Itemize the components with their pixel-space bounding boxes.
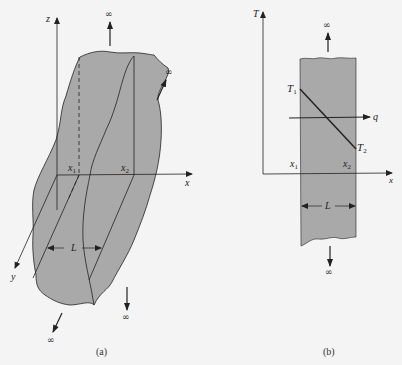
arrow-down-left-infinity (53, 313, 62, 332)
x-axis-b (263, 173, 392, 174)
semi-infinite-slab-3d (33, 51, 169, 305)
heat-flux-label-q: q (373, 111, 378, 122)
x1-label-b: x1 (289, 158, 298, 171)
infinity-symbol-right: ∞ (165, 67, 173, 77)
figure-b: T x q T1 T2 x1 x2 L ∞ ∞ (b) (253, 8, 393, 358)
infinity-symbol-bottom-right: ∞ (122, 312, 130, 322)
slab-cross-section (300, 58, 356, 246)
T-axis-label: T (253, 8, 260, 19)
figure-a: z x y x1 x2 L ∞ ∞ ∞ (10, 9, 192, 358)
x-axis-label-b: x (388, 175, 393, 185)
y-axis-label: y (10, 271, 16, 282)
caption-b: (b) (323, 346, 335, 358)
thickness-label-L: L (70, 242, 77, 253)
caption-a: (a) (96, 346, 107, 358)
thickness-label-L-b: L (324, 200, 331, 211)
T1-label: T1 (287, 82, 297, 96)
z-axis-label: z (45, 13, 50, 24)
x-axis-label: x (184, 177, 190, 188)
infinity-symbol-bottom-left: ∞ (47, 335, 55, 345)
infinity-symbol-top: ∞ (105, 9, 113, 19)
infinity-symbol-top-b: ∞ (323, 20, 331, 30)
infinity-symbol-bottom-b: ∞ (325, 267, 333, 277)
T2-label: T2 (357, 141, 367, 155)
